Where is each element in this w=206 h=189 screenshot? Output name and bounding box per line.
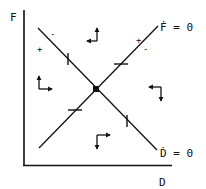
- phase-arrow-left: [39, 76, 52, 89]
- d-dot-sign-plus: +: [37, 44, 43, 54]
- x-axis-label: D: [159, 176, 166, 189]
- f-dot-sign-minus: -: [143, 44, 148, 54]
- f-dot-zero-label: Ḟ = 0: [160, 21, 193, 34]
- y-axis-label: F: [10, 11, 17, 24]
- equilibrium-point: [93, 86, 99, 92]
- phase-arrow-top: [87, 28, 97, 41]
- phase-arrow-right: [149, 87, 161, 101]
- d-dot-sign-minus: -: [50, 29, 55, 39]
- d-dot-zero-label: Ḋ = 0: [160, 147, 193, 160]
- phase-diagram: F D Ḟ = 0 Ḋ = 0 - + + -: [0, 0, 206, 189]
- f-dot-sign-plus: +: [136, 35, 142, 45]
- phase-arrow-bottom: [97, 135, 110, 149]
